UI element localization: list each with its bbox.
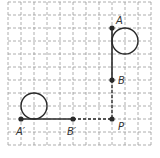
circles — [21, 28, 138, 119]
segments — [21, 28, 112, 119]
label-a: A — [115, 15, 123, 26]
label-b-prime: B′ — [67, 126, 77, 137]
point-b-prime — [70, 116, 75, 121]
point-b — [109, 77, 114, 82]
label-p: P — [118, 121, 125, 132]
point-a-prime — [18, 116, 23, 121]
points — [18, 25, 114, 121]
grid — [8, 2, 151, 145]
rotation-diagram: A B P A′ B′ — [0, 0, 160, 158]
label-b: B — [118, 75, 125, 86]
point-a — [109, 25, 114, 30]
label-a-prime: A′ — [15, 126, 26, 137]
point-p — [109, 116, 114, 121]
